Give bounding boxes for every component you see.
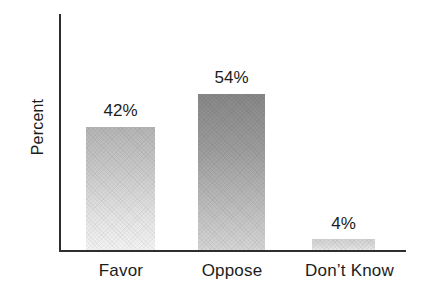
bar-favor	[86, 127, 155, 250]
y-axis-title: Percent	[29, 77, 47, 177]
x-tick-label-dont-know: Don’t Know	[293, 261, 406, 281]
value-label-favor: 42%	[86, 101, 155, 121]
bar-oppose	[198, 94, 265, 250]
bar-chart-figure: 42% 54% 4% Percent Favor Oppose Don’t Kn…	[0, 0, 424, 298]
bar-dont-know	[312, 239, 375, 250]
plot-area: 42% 54% 4%	[0, 0, 424, 298]
x-tick-label-oppose: Oppose	[190, 261, 274, 281]
y-axis-line	[59, 14, 61, 252]
x-axis-line	[59, 250, 406, 252]
value-label-dont-know: 4%	[312, 214, 375, 234]
x-tick-label-favor: Favor	[80, 261, 162, 281]
value-label-oppose: 54%	[198, 68, 265, 88]
